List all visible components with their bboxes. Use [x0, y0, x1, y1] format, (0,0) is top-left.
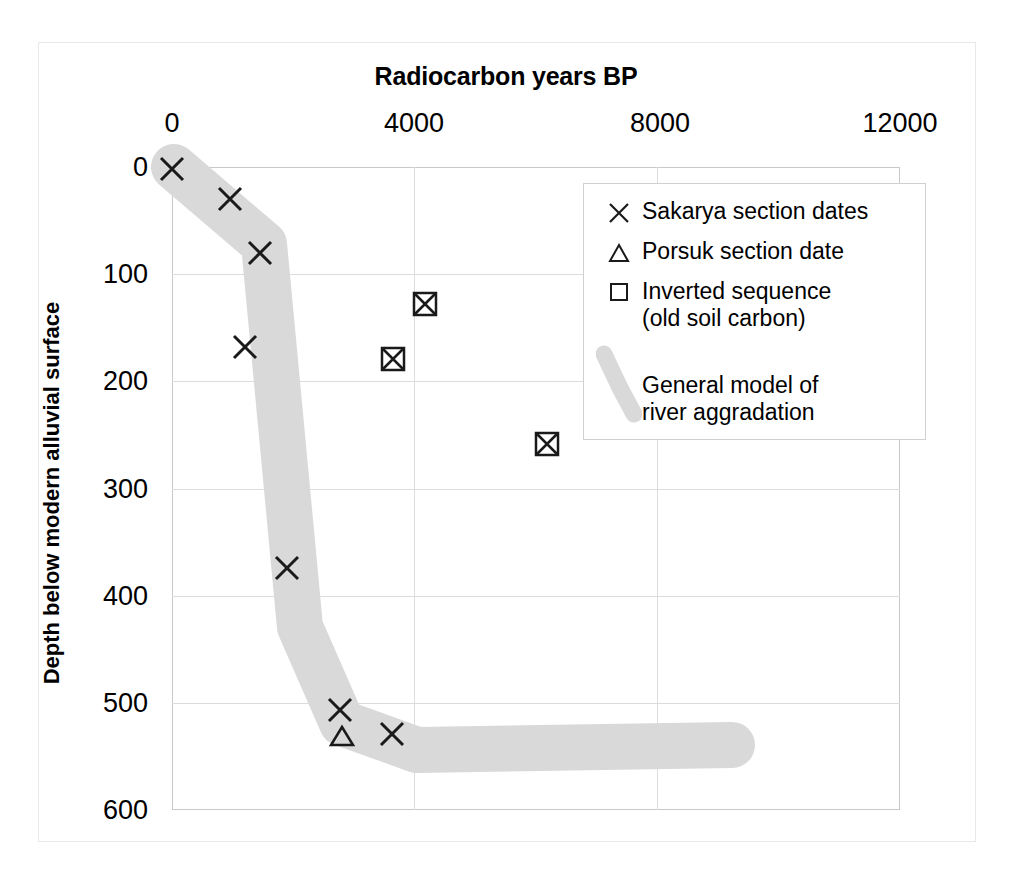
- data-point-sakarya: [245, 238, 275, 268]
- data-point-sakarya: [157, 154, 187, 184]
- y-axis-label: Depth below modern alluvial surface: [39, 233, 65, 753]
- data-point-sakarya: [325, 695, 355, 725]
- x-marker-icon: [596, 198, 642, 225]
- xtick-label-4000: 4000: [334, 108, 494, 139]
- legend-entry-sakarya: Sakarya section dates: [596, 198, 868, 225]
- xtick-label-8000: 8000: [580, 108, 740, 139]
- data-point-sakarya: [377, 719, 407, 749]
- chart-legend: Sakarya section dates Porsuk section dat…: [583, 183, 926, 440]
- xtick-label-12000: 12000: [820, 108, 980, 139]
- square-marker-icon: [596, 278, 642, 303]
- ytick-label-500: 500: [58, 688, 148, 719]
- ytick-label-300: 300: [58, 474, 148, 505]
- data-point-inverted-sequence: [379, 345, 407, 373]
- gray-band-swatch-icon: [596, 344, 642, 440]
- chart-title: Radiocarbon years BP: [0, 62, 1012, 91]
- data-point-sakarya: [272, 553, 302, 583]
- ytick-label-200: 200: [58, 366, 148, 397]
- data-point-inverted-sequence: [533, 430, 561, 458]
- data-point-porsuk: [329, 723, 355, 749]
- ytick-label-100: 100: [58, 259, 148, 290]
- data-point-inverted-sequence: [411, 290, 439, 318]
- legend-entry-general-model: General model of river aggradation: [596, 344, 818, 440]
- legend-label-inverted-sequence: Inverted sequence (old soil carbon): [642, 278, 831, 332]
- ytick-label-400: 400: [58, 581, 148, 612]
- legend-label-porsuk: Porsuk section date: [642, 238, 844, 265]
- xtick-label-0: 0: [92, 108, 252, 139]
- legend-entry-porsuk: Porsuk section date: [596, 238, 844, 265]
- data-point-sakarya: [230, 332, 260, 362]
- data-point-sakarya: [215, 184, 245, 214]
- legend-label-general-model: General model of river aggradation: [642, 344, 818, 426]
- legend-entry-inverted-sequence: Inverted sequence (old soil carbon): [596, 278, 831, 332]
- ytick-label-0: 0: [58, 152, 148, 183]
- triangle-marker-icon: [596, 238, 642, 265]
- ytick-label-600: 600: [58, 795, 148, 826]
- legend-label-sakarya: Sakarya section dates: [642, 198, 868, 225]
- chart-figure: Radiocarbon years BP 0 4000 8000 12000 0…: [0, 0, 1012, 895]
